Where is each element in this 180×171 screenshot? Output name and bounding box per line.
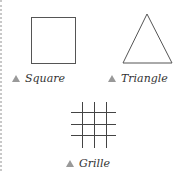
triangle-caption: Triangle — [108, 72, 168, 85]
triangle-marker-icon — [108, 75, 116, 82]
triangle-marker-icon — [66, 160, 74, 167]
triangle-figure — [121, 13, 175, 65]
grille-figure — [70, 100, 118, 150]
square-figure — [30, 16, 78, 66]
grille-caption: Grille — [66, 157, 110, 170]
dotted-left-border — [0, 0, 2, 171]
triangle-marker-icon — [12, 75, 20, 82]
square-caption: Square — [12, 72, 65, 85]
